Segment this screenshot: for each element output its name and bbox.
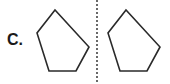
- figure: [0, 0, 170, 84]
- left-pentagon: [37, 10, 89, 71]
- right-pentagon: [108, 10, 160, 71]
